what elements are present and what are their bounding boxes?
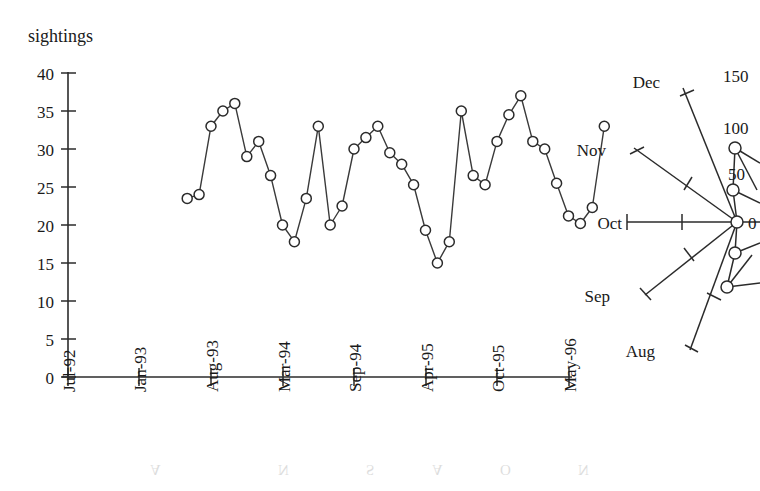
x-tick-label: Oct-95 xyxy=(489,345,508,392)
data-point-marker xyxy=(194,190,204,200)
y-tick-label: 5 xyxy=(46,331,55,350)
data-point-marker xyxy=(540,144,550,154)
polar-label-dec: Dec xyxy=(633,73,661,92)
y-tick-label: 20 xyxy=(37,217,54,236)
data-point-marker xyxy=(599,121,609,131)
y-tick-label: 15 xyxy=(37,255,54,274)
polar-spoke-tick xyxy=(680,90,694,96)
x-tick-label: Aug-93 xyxy=(203,340,222,392)
polar-radial-label-50: 50 xyxy=(728,165,745,184)
data-point-marker xyxy=(242,152,252,162)
data-point-marker xyxy=(516,91,526,101)
data-point-marker xyxy=(373,121,383,131)
data-point-marker xyxy=(337,201,347,211)
data-point-marker xyxy=(504,110,514,120)
x-tick-label: Sep-94 xyxy=(346,343,365,392)
data-point-marker xyxy=(301,193,311,203)
data-point-marker xyxy=(349,144,359,154)
y-tick-label: 40 xyxy=(37,65,54,84)
data-point-marker xyxy=(397,159,407,169)
polar-radial-label-150: 150 xyxy=(723,67,749,86)
y-tick-label: 10 xyxy=(37,293,54,312)
data-point-marker xyxy=(587,203,597,213)
scientific-figure: sightings 40 35 30 25 20 15 10 xyxy=(0,0,760,491)
polar-vertex xyxy=(721,281,733,293)
polar-label-aug: Aug xyxy=(626,342,656,361)
data-point-marker xyxy=(361,133,371,143)
data-point-marker xyxy=(421,225,431,235)
data-point-marker xyxy=(289,237,299,247)
data-point-marker xyxy=(528,136,538,146)
data-point-marker xyxy=(266,171,276,181)
timeseries-chart: sightings 40 35 30 25 20 15 10 xyxy=(28,26,609,392)
data-point-marker xyxy=(278,220,288,230)
data-point-marker xyxy=(325,220,335,230)
x-tick-label: Mar-94 xyxy=(275,341,294,392)
x-tick-label: May-96 xyxy=(561,338,580,392)
data-point-marker xyxy=(480,180,490,190)
y-tick-label: 25 xyxy=(37,179,54,198)
data-point-marker xyxy=(456,106,466,116)
data-point-marker xyxy=(409,180,419,190)
polar-vertex xyxy=(727,184,739,196)
y-axis-title: sightings xyxy=(28,26,93,46)
data-point-marker xyxy=(385,148,395,158)
y-axis-ticks: 40 35 30 25 20 15 10 5 0 xyxy=(37,65,76,388)
data-point-marker xyxy=(552,178,562,188)
polar-spoke-tick xyxy=(684,248,694,261)
data-point-marker xyxy=(254,136,264,146)
data-point-marker xyxy=(182,193,192,203)
data-point-marker xyxy=(230,98,240,108)
polar-label-nov: Nov xyxy=(577,141,607,160)
y-tick-label: 35 xyxy=(37,103,54,122)
x-tick-label: Jan-93 xyxy=(131,347,150,392)
polar-chart: Dec Nov Oct Sep Aug 150 100 50 0 xyxy=(577,67,760,361)
polar-spoke-tick xyxy=(640,288,651,300)
x-axis-ticks: Jul-92 Jan-93 Aug-93 Mar-94 Sep-94 Apr-9… xyxy=(60,338,580,392)
polar-label-sep: Sep xyxy=(585,287,611,306)
y-tick-label: 30 xyxy=(37,141,54,160)
x-tick-label: Jul-92 xyxy=(60,350,79,393)
data-point-marker xyxy=(492,136,502,146)
polar-vertex xyxy=(731,216,743,228)
polar-radial-label-100: 100 xyxy=(723,119,749,138)
data-point-marker xyxy=(313,121,323,131)
y-tick-label: 0 xyxy=(46,369,55,388)
data-point-marker xyxy=(564,211,574,221)
data-point-marker xyxy=(468,171,478,181)
series-markers xyxy=(182,91,609,268)
data-point-marker xyxy=(218,106,228,116)
figure-canvas: sightings 40 35 30 25 20 15 10 xyxy=(0,0,760,491)
data-point-marker xyxy=(206,121,216,131)
data-point-marker xyxy=(575,219,585,229)
data-point-marker xyxy=(444,237,454,247)
polar-vertex xyxy=(729,247,741,259)
data-point-marker xyxy=(432,258,442,268)
polar-vertex xyxy=(729,142,741,154)
polar-label-oct: Oct xyxy=(597,214,622,233)
x-tick-label: Apr-95 xyxy=(418,343,437,392)
polar-radial-label-0: 0 xyxy=(748,214,757,233)
series-line xyxy=(187,96,604,263)
